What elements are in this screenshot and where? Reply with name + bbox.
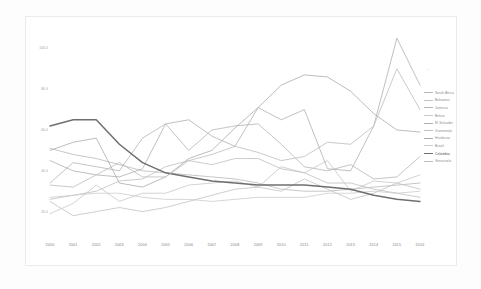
legend-item[interactable]: Honduras bbox=[424, 135, 480, 143]
legend-color-swatch-icon bbox=[424, 107, 433, 108]
chart-page: Homicides per 100,000 inhabitants 100.08… bbox=[0, 0, 481, 289]
legend-color-swatch-icon bbox=[424, 115, 433, 116]
line-series-group bbox=[50, 28, 420, 232]
legend-item[interactable]: Belize bbox=[424, 112, 480, 120]
x-axis-tick-label: 2012 bbox=[323, 243, 332, 247]
x-axis-tick-label: 2002 bbox=[92, 243, 101, 247]
legend-item[interactable]: Jamaica bbox=[424, 104, 480, 112]
legend-item-label: Colombia bbox=[435, 152, 450, 156]
legend-item[interactable]: Brazil bbox=[424, 142, 480, 150]
legend-color-swatch-icon bbox=[424, 161, 433, 162]
line-series bbox=[50, 179, 420, 216]
x-axis-tick-label: 2013 bbox=[346, 243, 355, 247]
x-axis-tick-label: 2014 bbox=[369, 243, 378, 247]
legend-item[interactable]: Guatemala bbox=[424, 127, 480, 135]
y-axis-tick-label: 20.0 bbox=[18, 210, 48, 214]
legend-item-label: Bahamas bbox=[435, 98, 450, 102]
legend-color-swatch-icon bbox=[424, 138, 433, 139]
y-axis-tick-label: 100.0 bbox=[18, 46, 48, 50]
y-axis-tick-label: 60.0 bbox=[18, 128, 48, 132]
x-axis-tick-label: 2005 bbox=[161, 243, 170, 247]
legend-item[interactable]: El Salvador bbox=[424, 119, 480, 127]
x-axis-tick-label: 2008 bbox=[231, 243, 240, 247]
x-axis-tick-label: 2003 bbox=[115, 243, 124, 247]
legend-item-label: Brazil bbox=[435, 144, 444, 148]
legend-item[interactable]: Colombia bbox=[424, 150, 480, 158]
legend-item[interactable]: Venezuela bbox=[424, 157, 480, 165]
x-axis-tick-label: 2015 bbox=[392, 243, 401, 247]
legend-item-label: Honduras bbox=[435, 136, 450, 140]
x-axis-ticks: 2000200120022003200420052006200720082009… bbox=[50, 243, 420, 253]
x-axis-tick-label: 2011 bbox=[300, 243, 309, 247]
x-axis-tick-label: 2007 bbox=[207, 243, 216, 247]
legend-item-label: South Africa bbox=[435, 91, 454, 95]
legend-item-label: Jamaica bbox=[435, 106, 448, 110]
plot-area bbox=[50, 28, 420, 232]
legend-item-label: Venezuela bbox=[435, 159, 451, 163]
y-axis-tick-label: 80.0 bbox=[18, 87, 48, 91]
legend-item[interactable]: South Africa bbox=[424, 89, 480, 97]
legend-color-swatch-icon bbox=[424, 145, 433, 146]
x-axis-tick-label: 2001 bbox=[69, 243, 78, 247]
legend-item-label: Guatemala bbox=[435, 129, 452, 133]
x-axis-tick-label: 2010 bbox=[277, 243, 286, 247]
chart-legend: South AfricaBahamasJamaicaBelizeEl Salva… bbox=[424, 89, 480, 165]
legend-color-swatch-icon bbox=[424, 92, 433, 93]
legend-color-swatch-icon bbox=[424, 123, 433, 124]
x-axis-tick-label: 2009 bbox=[254, 243, 263, 247]
legend-item[interactable]: Bahamas bbox=[424, 97, 480, 105]
legend-item-label: El Salvador bbox=[435, 121, 453, 125]
line-series bbox=[50, 124, 420, 183]
y-axis-ticks: 100.080.060.040.020.0 bbox=[14, 28, 48, 232]
legend-color-swatch-icon bbox=[424, 100, 433, 101]
x-axis-tick-label: 2000 bbox=[46, 243, 55, 247]
x-axis-tick-label: 2004 bbox=[138, 243, 147, 247]
legend-color-swatch-icon bbox=[424, 130, 433, 131]
y-axis-tick-label: 40.0 bbox=[18, 169, 48, 173]
x-axis-tick-label: 2006 bbox=[184, 243, 193, 247]
stray-mark bbox=[428, 69, 429, 70]
x-axis-tick-label: 2016 bbox=[416, 243, 425, 247]
legend-color-swatch-icon bbox=[424, 153, 433, 154]
legend-item-label: Belize bbox=[435, 114, 445, 118]
